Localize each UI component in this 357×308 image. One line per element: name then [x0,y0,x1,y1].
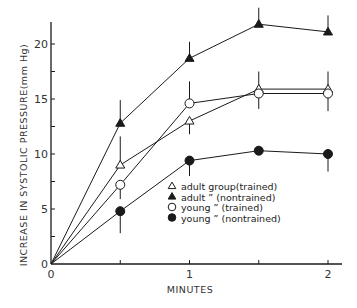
legend-label: young ” (trained) [181,202,263,213]
y-tick-label: 10 [34,148,48,161]
y-tick-label: 15 [34,93,48,106]
open-circle-marker-icon [185,99,194,108]
series-open-circle [51,81,333,264]
filled-triangle-marker-icon [168,193,176,199]
filled-circle-marker-icon [324,150,333,159]
x-axis-title: MINUTES [167,284,213,295]
open-triangle-marker-icon [168,182,176,188]
x-tick-label: 2 [325,268,332,281]
legend: adult group(trained)adult ” (nontrained)… [168,181,281,224]
series-filled-triangle [51,8,333,264]
legend-label: adult ” (nontrained) [181,192,275,203]
open-circle-marker-icon [324,89,333,98]
y-tick-label: 5 [41,203,48,216]
filled-circle-marker-icon [168,214,176,222]
filled-circle-marker-icon [185,156,194,165]
legend-label: adult group(trained) [181,181,277,192]
open-triangle-marker-icon [185,116,194,124]
y-tick-label: 20 [34,38,48,51]
legend-label: young ” (nontrained) [181,213,281,224]
x-tick-label: 1 [186,268,193,281]
y-axis-title: INCREASE IN SYSTOLIC PRESSURE(mm Hg) [18,44,29,267]
filled-triangle-marker-icon [185,54,194,62]
filled-triangle-marker-icon [254,20,263,28]
open-circle-marker-icon [168,203,176,211]
open-circle-marker-icon [254,89,263,98]
y-tick-label: 0 [41,258,48,271]
line-chart: 01205101520 adult group(trained)adult ” … [0,0,357,308]
open-circle-marker-icon [116,180,125,189]
filled-circle-marker-icon [116,207,125,216]
plot-area [51,8,333,264]
filled-circle-marker-icon [254,146,263,155]
series-line [51,89,328,264]
x-tick-label: 0 [48,268,55,281]
open-triangle-marker-icon [116,160,125,168]
